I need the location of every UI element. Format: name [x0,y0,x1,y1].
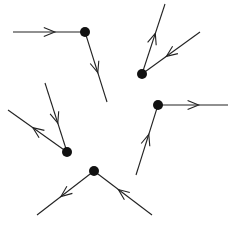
vertex-group-C [136,100,228,175]
vertex-group-B [137,4,200,79]
edge-A-outgoing [85,32,107,102]
vertex-group-A [13,27,107,102]
vertex-edge-diagram [0,0,238,225]
edge-D-incoming [45,83,67,152]
vertex-dot-D [62,147,72,157]
edge-E-incoming [94,171,152,215]
vertex-dot-B [137,69,147,79]
diagram-canvas [0,0,238,225]
edge-E-outgoing [37,171,94,215]
vertex-group-D [8,83,72,157]
edge-B-outgoing [142,4,165,74]
vertex-dot-A [80,27,90,37]
edge-C-incoming [136,105,158,175]
vertex-group-E [37,166,152,215]
vertex-dot-E [89,166,99,176]
vertex-dot-C [153,100,163,110]
